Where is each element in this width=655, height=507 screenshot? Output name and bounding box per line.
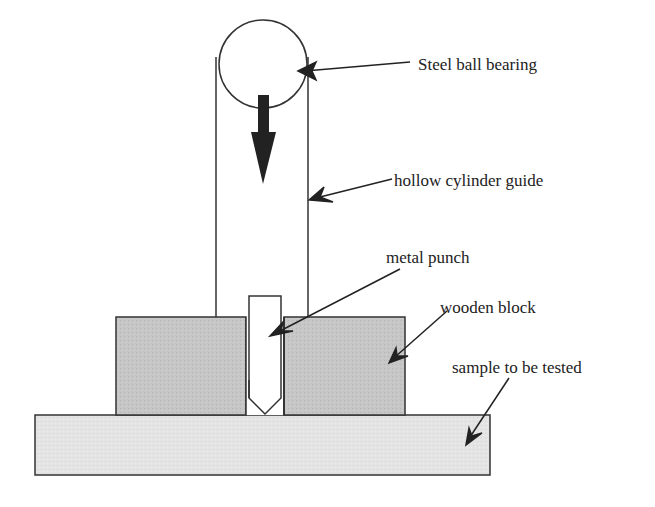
wooden-block-left <box>116 317 246 415</box>
steel-ball <box>219 20 307 108</box>
label-sample: sample to be tested <box>452 358 582 377</box>
label-wooden-block: wooden block <box>440 298 536 317</box>
wooden-block-right <box>284 317 405 415</box>
label-metal-punch: metal punch <box>386 248 470 267</box>
label-steel-ball: Steel ball bearing <box>418 55 537 74</box>
metal-punch <box>249 296 281 414</box>
apparatus-diagram: Steel ball bearing hollow cylinder guide… <box>0 0 655 507</box>
label-cylinder-guide: hollow cylinder guide <box>394 171 543 190</box>
sample-plate <box>35 415 490 475</box>
drop-direction-arrow-icon <box>251 95 276 184</box>
